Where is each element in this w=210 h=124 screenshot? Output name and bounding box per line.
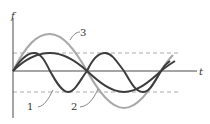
curve-1 xyxy=(13,53,170,92)
curve-label-1: 1 xyxy=(27,101,33,112)
leader-line-1 xyxy=(38,90,53,107)
curve-label-3: 3 xyxy=(80,27,86,38)
leader-line-3 xyxy=(70,32,80,40)
curve-label-2: 2 xyxy=(71,101,77,112)
x-axis-label: t xyxy=(199,66,204,77)
y-axis-label: f xyxy=(10,10,17,21)
wave-diagram: f t 1 2 3 xyxy=(0,0,210,124)
leader-line-2 xyxy=(80,89,98,107)
